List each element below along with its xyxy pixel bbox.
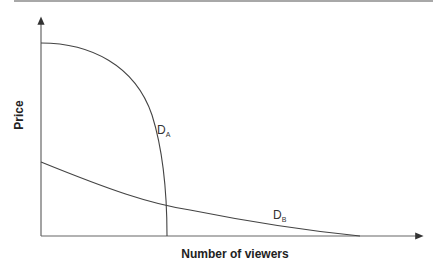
demand-chart: Price Number of viewers DA DB xyxy=(0,0,442,266)
curve-d-b-label: DB xyxy=(273,208,287,223)
curve-d-a xyxy=(41,43,167,236)
y-axis-label: Price xyxy=(12,100,26,130)
curve-d-a-label: DA xyxy=(157,123,171,138)
curve-d-b xyxy=(41,162,360,236)
x-axis-label: Number of viewers xyxy=(181,247,289,261)
